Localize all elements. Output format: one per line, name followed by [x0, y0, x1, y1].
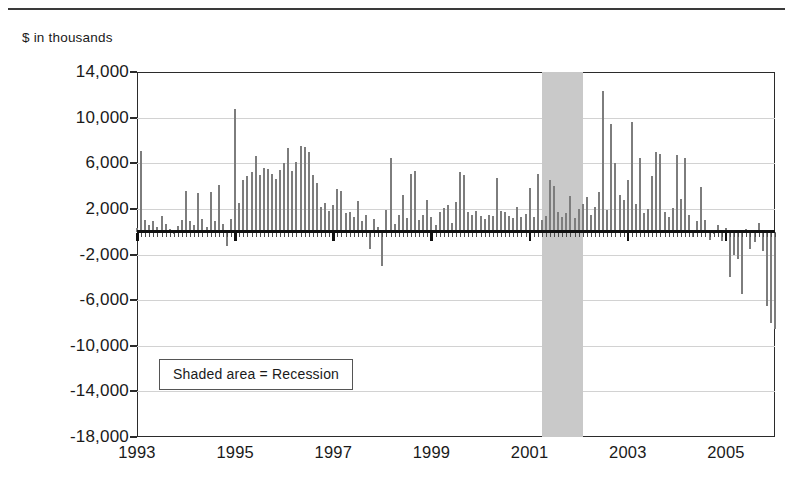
y-axis-tick [130, 71, 137, 73]
bar [459, 172, 461, 231]
x-axis-minor-tick [624, 233, 625, 237]
x-axis-minor-tick [202, 233, 203, 237]
bar [263, 168, 265, 232]
x-axis-minor-tick [284, 233, 285, 237]
bar [410, 174, 412, 232]
x-axis-minor-tick [538, 233, 539, 237]
x-axis-major-tick [332, 233, 335, 241]
bar [598, 192, 600, 232]
bar [651, 176, 653, 232]
bar [422, 215, 424, 232]
y-axis-tick [130, 345, 137, 347]
x-axis-minor-tick [395, 233, 396, 237]
bar [271, 174, 273, 232]
x-axis-major-tick [725, 233, 728, 241]
x-axis-minor-tick [575, 233, 576, 237]
bar [680, 199, 682, 232]
x-axis-minor-tick [534, 233, 535, 237]
bar [537, 174, 539, 232]
x-axis-minor-tick [444, 233, 445, 237]
x-axis-tick-label: 2001 [511, 443, 549, 462]
x-axis-minor-tick [648, 233, 649, 237]
x-axis-minor-tick [546, 233, 547, 237]
x-axis-minor-tick [354, 233, 355, 237]
x-axis-minor-tick [542, 233, 543, 237]
y-axis-tick-label: 2,000 [85, 199, 129, 219]
bar [443, 208, 445, 232]
x-axis-minor-tick [362, 233, 363, 237]
x-axis-minor-tick [714, 233, 715, 237]
bar [594, 207, 596, 232]
x-axis-labels: 1993199519971999200120032005 [137, 443, 775, 469]
x-axis-minor-tick [341, 233, 342, 237]
bar [255, 156, 257, 231]
x-axis-minor-tick [174, 233, 175, 237]
x-axis-minor-tick [693, 233, 694, 237]
x-axis-minor-tick [759, 233, 760, 237]
bar [525, 214, 527, 232]
x-axis-minor-tick [771, 233, 772, 237]
x-axis-minor-tick [755, 233, 756, 237]
x-axis-minor-tick [644, 233, 645, 237]
x-axis-minor-tick [170, 233, 171, 237]
x-axis-minor-tick [468, 233, 469, 237]
bar [218, 185, 220, 232]
x-axis-minor-tick [595, 233, 596, 237]
bar [291, 171, 293, 231]
bar [312, 175, 314, 232]
x-axis-major-tick [529, 233, 532, 241]
x-axis-minor-tick [436, 233, 437, 237]
x-axis-major-tick [136, 233, 139, 241]
bar [463, 175, 465, 232]
x-axis-minor-tick [746, 233, 747, 237]
x-axis-minor-tick [268, 233, 269, 237]
x-axis-tick-label: 1997 [315, 443, 353, 462]
x-axis-minor-tick [288, 233, 289, 237]
x-axis-minor-tick [382, 233, 383, 237]
x-axis-minor-tick [276, 233, 277, 237]
x-axis-tick-label: 1995 [216, 443, 254, 462]
bar [275, 179, 277, 231]
x-axis-minor-tick [620, 233, 621, 237]
x-axis-minor-tick [366, 233, 367, 237]
figure-container: $ in thousands 14,00010,0006,0002,000-2,… [0, 0, 793, 478]
bar [295, 162, 297, 232]
bar [774, 232, 776, 329]
x-axis-minor-tick [264, 233, 265, 237]
bar [770, 232, 772, 323]
x-axis-minor-tick [272, 233, 273, 237]
x-axis-minor-tick [673, 233, 674, 237]
y-axis-tick [130, 162, 137, 164]
bar [500, 211, 502, 232]
bar [251, 172, 253, 231]
x-axis-minor-tick [701, 233, 702, 237]
bar [357, 201, 359, 232]
x-axis-minor-tick [448, 233, 449, 237]
bar [471, 215, 473, 232]
x-axis-minor-tick [656, 233, 657, 237]
x-axis-minor-tick [239, 233, 240, 237]
bar [390, 158, 392, 232]
bar [365, 215, 367, 232]
x-axis-minor-tick [317, 233, 318, 237]
x-axis-tick-label: 2005 [707, 443, 745, 462]
bar [279, 170, 281, 232]
x-axis-minor-tick [256, 233, 257, 237]
bar [672, 208, 674, 232]
y-axis-tick [130, 208, 137, 210]
x-axis-minor-tick [247, 233, 248, 237]
bar [475, 211, 477, 232]
bar [639, 158, 641, 232]
bar [385, 210, 387, 232]
x-axis-minor-tick [677, 233, 678, 237]
x-axis-major-tick [627, 233, 630, 241]
x-axis-minor-tick [521, 233, 522, 237]
x-axis-minor-tick [301, 233, 302, 237]
x-axis-minor-tick [497, 233, 498, 237]
x-axis-minor-tick [296, 233, 297, 237]
x-axis-minor-tick [632, 233, 633, 237]
x-axis-minor-tick [157, 233, 158, 237]
x-axis-minor-tick [391, 233, 392, 237]
y-axis-tick-label: -10,000 [70, 336, 129, 356]
y-axis-tick-label: 14,000 [76, 62, 129, 82]
